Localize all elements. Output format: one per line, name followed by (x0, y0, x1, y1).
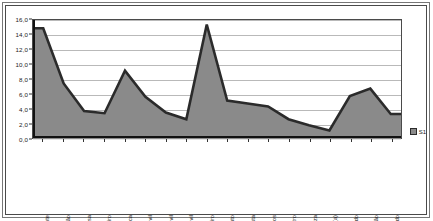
x-tick-mark (42, 139, 43, 142)
y-tick-mark (29, 124, 32, 125)
y-tick-mark (29, 94, 32, 95)
x-tick-mark (104, 139, 105, 142)
x-tick-mark (145, 139, 146, 142)
y-tick-mark (29, 109, 32, 110)
series-area-s1 (33, 20, 401, 139)
x-tick-mark (248, 139, 249, 142)
x-tick-mark (310, 139, 311, 142)
x-tick-label: Elect. Const. Civil (188, 215, 194, 221)
chart-legend: S1 (410, 128, 426, 135)
x-tick-label: Vendedor(a) Ambulante (44, 215, 50, 221)
x-tick-label: Empregado de Mesa (86, 215, 92, 221)
x-tick-label: Empregado de Balcão (65, 215, 71, 221)
x-tick-label: Desempregado (353, 215, 359, 221)
y-tick-mark (29, 49, 32, 50)
y-tick-mark (29, 64, 32, 65)
y-tick-mark (29, 79, 32, 80)
y-tick-label: 4,0 (19, 106, 28, 113)
x-tick-mark (83, 139, 84, 142)
x-tick-label: Aj. Mec. / Mecânico Auto (229, 215, 235, 221)
x-tick-label: Pintor Const. Civil (168, 215, 174, 221)
y-tick-label: 10,0 (16, 61, 28, 68)
plot-area (32, 19, 402, 139)
x-axis-line (33, 136, 401, 138)
plot-wrapper: 0,02,04,06,08,010,012,014,016,0 (32, 19, 402, 139)
y-tick-label: 6,0 (19, 91, 28, 98)
x-tick-mark (63, 139, 64, 142)
y-tick-label: 14,0 (16, 31, 28, 38)
x-tick-mark (207, 139, 208, 142)
y-tick-mark (29, 34, 32, 35)
x-tick-mark (125, 139, 126, 142)
y-tick-mark (29, 19, 32, 20)
chart-figure: 0,02,04,06,08,010,012,014,016,0 Vendedor… (0, 0, 433, 221)
x-tick-mark (351, 139, 352, 142)
y-tick-label: 0,0 (19, 136, 28, 143)
y-tick-label: 12,0 (16, 46, 28, 53)
x-tick-mark (268, 139, 269, 142)
x-tick-label: Músico / Teatro (291, 215, 297, 221)
y-tick-label: 8,0 (19, 76, 28, 83)
x-tick-label: Motorista (250, 215, 256, 221)
x-tick-label: Padeiro / Cozinheiro (106, 215, 112, 221)
x-tick-mark (227, 139, 228, 142)
x-tick-mark (186, 139, 187, 142)
x-tick-mark (330, 139, 331, 142)
x-tick-mark (371, 139, 372, 142)
x-tick-label: Doméstico(a) / Limpeza (312, 215, 318, 221)
x-axis-tick-labels: Vendedor(a) AmbulanteEmpregado de Balcão… (32, 139, 402, 217)
legend-swatch-s1 (410, 128, 417, 135)
x-tick-label: T. Agrícola / Pesca (127, 215, 133, 221)
x-tick-mark (289, 139, 290, 142)
y-tick-label: 16,0 (16, 16, 28, 23)
x-tick-label: Servente Const. Civil (147, 215, 153, 221)
x-tick-mark (166, 139, 167, 142)
y-axis-line (33, 20, 35, 138)
x-tick-label: Sem Profissão (373, 215, 379, 221)
x-tick-mark (392, 139, 393, 142)
x-tick-label: Pedreiro (209, 215, 215, 221)
legend-label-s1: S1 (419, 129, 426, 135)
y-tick-label: 2,0 (19, 121, 28, 128)
x-tick-label: Indeterminado (394, 215, 400, 221)
x-tick-label: Aposentado(a) (332, 215, 338, 221)
x-tick-label: Prof. Liberal / Serviços (271, 215, 277, 221)
